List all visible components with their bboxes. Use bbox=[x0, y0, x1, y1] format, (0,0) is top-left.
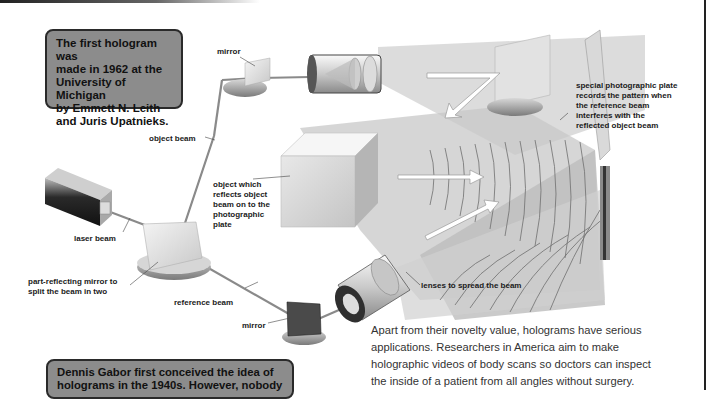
top-mirror bbox=[223, 58, 270, 97]
label-line: split the beam in two bbox=[28, 287, 117, 297]
body-line: the inside of a patient from all angles … bbox=[371, 373, 701, 390]
label-line: photographic bbox=[213, 210, 270, 220]
fact-box-dennis-gabor: Dennis Gabor first conceived the idea of… bbox=[46, 359, 294, 399]
label-laser-beam: laser beam bbox=[74, 234, 116, 244]
label-mirror-top: mirror bbox=[217, 47, 241, 57]
label-line: object which bbox=[213, 180, 270, 190]
bottom-mirror bbox=[282, 302, 326, 345]
label-object: object which reflects object beam on to … bbox=[213, 180, 270, 230]
fact-line: by Emmett N. Leith bbox=[56, 102, 172, 115]
label-part-reflecting-mirror: part-reflecting mirror to split the beam… bbox=[28, 277, 117, 297]
body-line: Apart from their novelty value, hologram… bbox=[371, 322, 701, 339]
label-line: special photographic plate bbox=[576, 81, 677, 91]
fact-line: holograms in the 1940s. However, nobody bbox=[57, 379, 283, 392]
label-line: records the pattern when bbox=[576, 91, 677, 101]
label-object-beam: object beam bbox=[149, 134, 196, 144]
body-paragraph: Apart from their novelty value, hologram… bbox=[371, 322, 701, 390]
label-line: reflected object beam bbox=[576, 121, 677, 131]
fact-line: University of Michigan bbox=[56, 76, 172, 102]
fact-box-first-hologram: The first hologram was made in 1962 at t… bbox=[45, 29, 183, 109]
label-line: plate bbox=[213, 220, 270, 230]
fact-line: Dennis Gabor first conceived the idea of bbox=[57, 366, 283, 379]
label-line: interferes with the bbox=[576, 111, 677, 121]
fact-line: The first hologram was bbox=[56, 37, 172, 63]
label-line: part-reflecting mirror to bbox=[28, 277, 117, 287]
label-line: beam on to the bbox=[213, 200, 270, 210]
body-line: holographic videos of body scans so doct… bbox=[371, 356, 701, 373]
fact-line: and Juris Upatnieks. bbox=[56, 115, 172, 128]
label-line: reflects object bbox=[213, 190, 270, 200]
body-line: applications. Researchers in America aim… bbox=[371, 339, 701, 356]
label-reference-beam: reference beam bbox=[174, 298, 233, 308]
laser-device bbox=[45, 168, 112, 226]
label-line: the reference beam bbox=[576, 101, 677, 111]
object-cube bbox=[281, 133, 378, 227]
label-mirror-bottom: mirror bbox=[242, 321, 266, 331]
part-reflecting-mirror bbox=[137, 222, 211, 280]
fact-line: made in 1962 at the bbox=[56, 63, 172, 76]
label-lenses: lenses to spread the beam bbox=[421, 281, 521, 291]
top-lens-tube bbox=[307, 55, 381, 93]
label-photographic-plate: special photographic plate records the p… bbox=[576, 81, 677, 131]
